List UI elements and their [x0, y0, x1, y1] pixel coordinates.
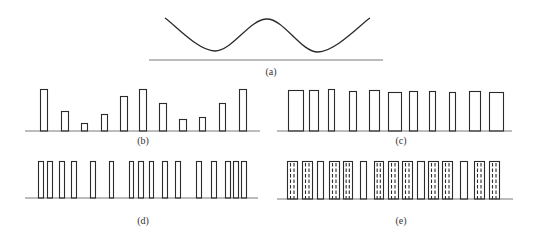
pulse-bar — [310, 91, 319, 132]
pulse-bar — [289, 91, 304, 132]
panel-label: (e) — [395, 215, 406, 227]
panel-label: (a) — [265, 66, 276, 78]
panel-b: (b) — [25, 90, 260, 148]
pulse-bar — [288, 162, 298, 200]
pulse-bar — [102, 115, 108, 132]
pulse-bar — [41, 90, 48, 132]
panel-a: (a) — [149, 18, 383, 78]
pulse-bar — [403, 162, 413, 200]
pulse-bar — [62, 112, 69, 132]
waveform-curve — [165, 18, 370, 52]
pulse-bar — [370, 91, 380, 132]
pulse-bar — [443, 162, 453, 200]
pulse-bar — [60, 162, 65, 199]
pulse-bar — [329, 90, 335, 132]
pulse-bar — [490, 93, 504, 132]
pulse-bar — [220, 104, 226, 132]
pulse-bar — [418, 162, 425, 200]
pulse-bar — [344, 162, 353, 200]
pulse-bar — [330, 162, 340, 200]
pulse-bar — [140, 90, 147, 132]
pulse-bar — [234, 162, 239, 199]
pulse-bar — [48, 162, 53, 199]
panel-e: (e) — [277, 162, 513, 228]
panel-label: (b) — [137, 135, 149, 147]
pulse-modulation-figure: (a) (b) (c) (d) (e) — [0, 0, 535, 232]
pulse-bar — [121, 97, 128, 132]
pulse-bar — [430, 92, 436, 132]
panel-label: (c) — [395, 135, 406, 147]
panel-label: (d) — [137, 215, 149, 227]
pulse-bar — [130, 162, 134, 199]
panel-c: (c) — [277, 90, 512, 148]
pulse-bar — [180, 120, 187, 132]
panel-d: (d) — [25, 162, 258, 228]
pulse-bar — [139, 162, 144, 199]
pulse-bar — [389, 93, 402, 132]
pulse-bar — [318, 162, 324, 200]
pulse-bar — [490, 162, 500, 200]
pulse-bar — [240, 90, 247, 132]
pulse-bar — [389, 162, 399, 200]
pulse-bar — [303, 162, 313, 200]
pulse-bar — [72, 162, 77, 199]
pulse-bar — [242, 162, 247, 199]
pulse-bar — [226, 162, 231, 199]
pulse-bar — [176, 162, 181, 199]
pulse-bar — [110, 162, 114, 199]
pulse-bar — [150, 162, 154, 199]
pulse-bar — [410, 92, 418, 132]
pulse-bar — [39, 162, 44, 199]
pulse-bar — [163, 162, 168, 199]
pulse-bar — [200, 118, 206, 132]
pulse-bar — [350, 92, 357, 132]
pulse-bar — [450, 93, 456, 132]
pulse-bar — [361, 162, 367, 200]
pulse-bar — [461, 162, 468, 200]
pulse-bar — [197, 162, 202, 199]
pulse-bar — [91, 162, 96, 199]
pulse-bar — [82, 124, 88, 132]
pulse-bar — [212, 162, 217, 199]
pulse-bar — [429, 162, 439, 200]
pulse-bar — [470, 92, 481, 132]
pulse-bar — [160, 104, 167, 132]
pulse-bar — [475, 162, 485, 200]
pulse-bar — [375, 162, 384, 200]
